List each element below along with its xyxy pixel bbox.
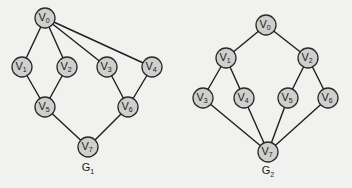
g2-node-v6: V6: [318, 88, 338, 108]
g2-edge-v3-v7: [203, 98, 268, 152]
g2-label: G2: [262, 164, 275, 178]
g1-label: G1: [82, 161, 95, 175]
g1-node-v7: V7: [78, 137, 98, 157]
g2-node-v0: V0: [256, 15, 276, 35]
g1-node-v0: V0: [35, 8, 55, 28]
graph-g1: V0V1V2V3V4V5V6V7 G1: [12, 8, 162, 175]
g2-edge-v6-v7: [268, 98, 328, 152]
g2-node-v5: V5: [278, 88, 298, 108]
g1-node-v6: V6: [118, 97, 138, 117]
g1-node-v2: V2: [57, 57, 77, 77]
g1-node-v1: V1: [12, 57, 32, 77]
g2-node-v3: V3: [193, 88, 213, 108]
g1-node-v3: V3: [97, 57, 117, 77]
g2-node-v7: V7: [258, 142, 278, 162]
g2-edges: [203, 25, 328, 152]
g2-nodes: V0V1V2V3V4V5V6V7: [193, 15, 338, 162]
g1-nodes: V0V1V2V3V4V5V6V7: [12, 8, 162, 157]
g2-node-v1: V1: [216, 48, 236, 68]
g1-node-v4: V4: [142, 57, 162, 77]
g2-node-v2: V2: [298, 48, 318, 68]
g1-node-v5: V5: [35, 97, 55, 117]
graph-g2: V0V1V2V3V4V5V6V7 G2: [193, 15, 338, 178]
g2-node-v4: V4: [234, 88, 254, 108]
graph-diagram-canvas: V0V1V2V3V4V5V6V7 G1 V0V1V2V3V4V5V6V7 G2: [0, 0, 352, 188]
g1-edges: [22, 18, 152, 147]
